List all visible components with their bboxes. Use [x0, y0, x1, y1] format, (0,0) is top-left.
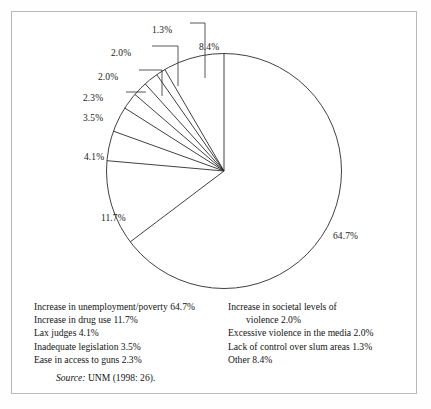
legend-item: Excessive violence in the media 2.0%	[228, 326, 423, 339]
legend: Increase in unemployment/poverty 64.7%In…	[0, 300, 431, 395]
legend-column-left: Increase in unemployment/poverty 64.7%In…	[34, 300, 229, 366]
pie-slice-boundary	[107, 161, 224, 171]
legend-item: violence 2.0%	[228, 313, 423, 326]
pie-percent-label: 64.7%	[333, 231, 358, 241]
leader-line	[152, 46, 178, 86]
pie-percent-label: 2.0%	[111, 48, 131, 58]
pie-percent-label: 8.4%	[199, 42, 219, 52]
legend-item: Ease in access to guns 2.3%	[34, 353, 229, 366]
pie-slice-boundary	[145, 84, 224, 171]
legend-item: Increase in unemployment/poverty 64.7%	[34, 300, 229, 313]
legend-item: Increase in societal levels of	[228, 300, 423, 313]
pie-percent-label: 3.5%	[83, 113, 103, 123]
figure-page: 64.7%11.7%4.1%3.5%2.3%2.0%2.0%1.3%8.4% I…	[0, 0, 431, 409]
pie-percent-label: 1.3%	[152, 25, 172, 35]
legend-column-right: Increase in societal levels ofviolence 2…	[228, 300, 423, 366]
pie-slice-boundary	[125, 108, 224, 171]
pie-percent-label: 2.0%	[98, 72, 118, 82]
source-note: Source: UNM (1998: 26).	[56, 372, 155, 383]
source-citation: UNM (1998: 26).	[88, 372, 155, 383]
pie-percent-label: 4.1%	[84, 152, 104, 162]
legend-item: Lax judges 4.1%	[34, 326, 229, 339]
pie-slice-boundary	[135, 94, 224, 171]
legend-item: Other 8.4%	[228, 353, 423, 366]
pie-percent-label: 2.3%	[83, 93, 103, 103]
legend-item: Lack of control over slum areas 1.3%	[228, 340, 423, 353]
pie-percent-label: 11.7%	[101, 213, 126, 223]
legend-item: Increase in drug use 11.7%	[34, 313, 229, 326]
pie-slice-boundary	[130, 171, 224, 242]
legend-item: Inadequate legislation 3.5%	[34, 340, 229, 353]
source-label: Source:	[56, 372, 85, 383]
pie-slice-boundary	[165, 69, 224, 171]
pie-chart: 64.7%11.7%4.1%3.5%2.3%2.0%2.0%1.3%8.4%	[0, 0, 431, 300]
pie-slice-boundary	[113, 131, 224, 171]
pie-slice-boundary	[157, 75, 224, 171]
pie-slices	[107, 54, 342, 289]
